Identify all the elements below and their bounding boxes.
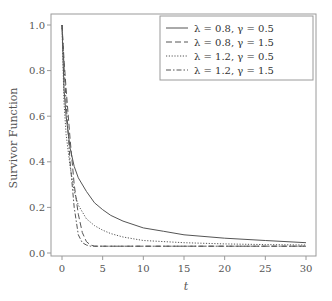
x-tick-label: 5	[99, 263, 105, 274]
y-tick-label: 1.0	[29, 20, 45, 31]
y-tick-label: 0.4	[29, 156, 45, 167]
x-tick-label: 10	[137, 263, 150, 274]
legend-label: λ = 1.2, γ = 1.5	[194, 65, 274, 76]
x-tick-label: 15	[178, 263, 191, 274]
y-tick-label: 0.6	[29, 111, 45, 122]
legend-label: λ = 0.8, γ = 0.5	[194, 23, 274, 34]
x-tick-label: 20	[218, 263, 231, 274]
legend-label: λ = 1.2, γ = 0.5	[194, 51, 274, 62]
x-tick-label: 25	[259, 263, 272, 274]
y-axis: 0.00.20.40.60.81.0	[29, 20, 51, 259]
legend-label: λ = 0.8, γ = 1.5	[194, 37, 274, 48]
x-axis-title: t	[184, 280, 189, 293]
legend: λ = 0.8, γ = 0.5λ = 0.8, γ = 1.5λ = 1.2,…	[160, 16, 313, 80]
y-tick-label: 0.2	[29, 202, 45, 213]
x-tick-label: 0	[59, 263, 65, 274]
x-tick-label: 30	[300, 263, 313, 274]
y-tick-label: 0.8	[29, 65, 45, 76]
y-tick-label: 0.0	[29, 248, 45, 259]
x-axis: 051015202530	[59, 256, 313, 274]
survivor-function-chart: 051015202530 0.00.20.40.60.81.0 t Surviv…	[0, 0, 332, 301]
y-axis-title: Survivor Function	[7, 88, 20, 189]
